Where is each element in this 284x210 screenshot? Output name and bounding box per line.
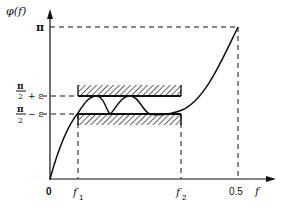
phase-diagram: φ(f) π π 2 + ε π 2 − ε 0 f 1 f 2 0.5 f — [0, 0, 284, 210]
x-tick-f2: f 2 — [175, 186, 187, 202]
x-tick-half: 0.5 — [229, 186, 243, 197]
svg-text:2: 2 — [18, 92, 23, 101]
y-axis-label: φ(f) — [6, 5, 26, 18]
x-tick-origin: 0 — [46, 186, 52, 197]
x-axis-arrow-icon — [266, 176, 276, 182]
svg-text:+ ε: + ε — [28, 91, 43, 101]
svg-text:f: f — [175, 186, 182, 199]
x-tick-f1: f 1 — [72, 186, 84, 202]
y-tick-pi: π — [36, 21, 44, 34]
svg-text:1: 1 — [79, 193, 84, 202]
y-axis-arrow-icon — [47, 9, 53, 19]
y-axis — [47, 9, 53, 180]
phase-curve — [50, 27, 238, 179]
svg-text:2: 2 — [182, 193, 187, 202]
x-axis — [50, 176, 276, 182]
svg-text:− ε: − ε — [28, 109, 43, 119]
svg-text:π: π — [17, 81, 24, 91]
svg-text:π: π — [17, 104, 24, 114]
svg-text:f: f — [72, 186, 79, 199]
x-axis-label: f — [254, 185, 261, 198]
svg-text:2: 2 — [18, 116, 23, 125]
y-tick-upper: π 2 + ε — [16, 81, 43, 101]
tolerance-band — [78, 85, 181, 125]
y-tick-lower: π 2 − ε — [16, 104, 43, 125]
